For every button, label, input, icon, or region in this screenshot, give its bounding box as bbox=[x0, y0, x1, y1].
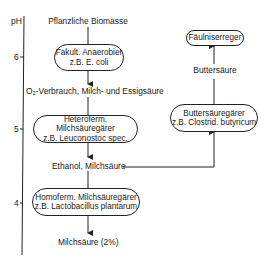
box-fakult-anaerobier: Fakult. Anaerobier z.B. E. coli bbox=[54, 44, 124, 71]
box-line: Fakult. Anaerobier bbox=[56, 48, 122, 58]
product-label-milchsaeure: Milchsäure (2%) bbox=[58, 238, 118, 247]
box-line: z.B. Clostrid. butyricum bbox=[172, 118, 256, 128]
box-heteroferm: Heteroferm. Milchsäuregärer z.B. Leucono… bbox=[33, 115, 138, 143]
ph-tick-4: 4 bbox=[14, 198, 19, 208]
ph-tick-6: 6 bbox=[14, 52, 19, 62]
box-line: Heteroferm. Milchsäuregärer bbox=[34, 115, 137, 134]
box-line: Homoferm. Milchsäuregärer bbox=[35, 193, 136, 203]
box-homoferm: Homoferm. Milchsäuregärer z.B. Lactobaci… bbox=[32, 188, 140, 216]
box-line: z.B. Lactobacillus plantarum bbox=[35, 202, 137, 212]
product-label-ethanol: Ethanol, Milchsäure bbox=[52, 162, 124, 171]
product-label-o2: O₂-Verbrauch, Milch- und Essigsäure bbox=[26, 87, 150, 96]
ph-axis-label: pH bbox=[11, 16, 22, 26]
ph-axis bbox=[22, 16, 24, 255]
source-label: Pflanzliche Biomasse bbox=[48, 17, 128, 26]
product-label-buttersaeure: Buttersäure bbox=[190, 66, 240, 75]
box-buttersaeuregaerer: Buttersäuregärer z.B. Clostrid. butyricu… bbox=[170, 104, 258, 132]
box-faeulniserreger: Fäulniserreger bbox=[186, 30, 244, 46]
box-line: z.B. E. coli bbox=[70, 58, 109, 68]
box-line: Fäulniserreger bbox=[189, 33, 242, 43]
box-line: z.B. Leuconostoc spec. bbox=[43, 134, 128, 144]
box-line: Buttersäuregärer bbox=[183, 109, 244, 119]
ph-tick-5: 5 bbox=[14, 124, 19, 134]
